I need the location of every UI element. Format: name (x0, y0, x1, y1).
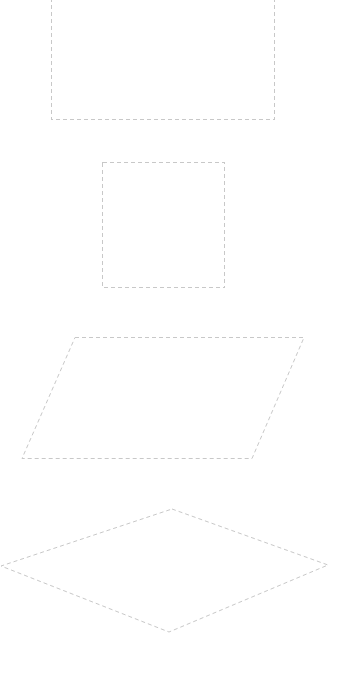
square-shape[interactable] (103, 163, 225, 288)
diagram-canvas (0, 0, 341, 675)
rectangle-shape[interactable] (52, 0, 275, 120)
parallelogram-shape[interactable] (22, 338, 304, 459)
diamond-shape[interactable] (1, 509, 328, 632)
